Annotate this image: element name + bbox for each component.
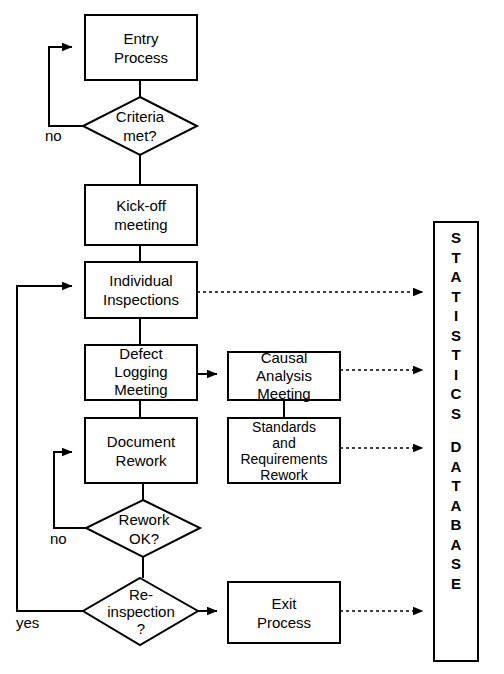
database-letter: T bbox=[451, 248, 462, 268]
database-letter: B bbox=[451, 515, 462, 535]
database-letter: A bbox=[451, 457, 462, 477]
node-kickoff-meeting[interactable] bbox=[85, 185, 197, 245]
node-statistics-database-label: STATISTICS DATABASE bbox=[434, 228, 478, 593]
database-letter: T bbox=[451, 287, 462, 307]
database-letter: E bbox=[451, 574, 462, 594]
database-letter: I bbox=[451, 306, 462, 326]
database-letter: A bbox=[451, 496, 462, 516]
node-causal-analysis-meeting[interactable] bbox=[228, 352, 340, 400]
edge-label-criteria-no: no bbox=[45, 128, 62, 144]
node-document-rework[interactable] bbox=[85, 418, 197, 483]
database-letter: A bbox=[451, 535, 462, 555]
edge-reworkok-no-to-document bbox=[54, 452, 86, 528]
node-individual-inspections[interactable] bbox=[85, 262, 197, 318]
edge-criteria-no-to-entry bbox=[49, 47, 83, 126]
node-standards-requirements-rework[interactable] bbox=[228, 418, 340, 483]
node-exit-process[interactable] bbox=[228, 582, 340, 643]
database-letter: S bbox=[451, 326, 462, 346]
database-letter: S bbox=[451, 554, 462, 574]
edge-label-re-inspection-yes: yes bbox=[16, 615, 39, 631]
edge-label-rework-ok-no: no bbox=[50, 531, 67, 547]
database-letter: T bbox=[451, 476, 462, 496]
node-defect-logging-meeting[interactable] bbox=[85, 345, 197, 400]
database-letter: C bbox=[451, 384, 462, 404]
database-word-statistics: STATISTICS bbox=[451, 228, 462, 423]
database-letter: T bbox=[451, 345, 462, 365]
database-word-database: DATABASE bbox=[451, 437, 462, 593]
database-letter: S bbox=[451, 404, 462, 424]
database-letter: D bbox=[451, 437, 462, 457]
database-letter: I bbox=[451, 365, 462, 385]
database-letter: S bbox=[451, 228, 462, 248]
node-entry-process[interactable] bbox=[85, 15, 197, 80]
database-letter: A bbox=[451, 267, 462, 287]
node-re-inspection[interactable] bbox=[83, 578, 198, 645]
edge-reinspect-yes-to-individual bbox=[17, 286, 83, 611]
flowchart-canvas bbox=[0, 0, 504, 674]
node-rework-ok[interactable] bbox=[86, 500, 200, 557]
node-criteria-met[interactable] bbox=[83, 97, 197, 155]
